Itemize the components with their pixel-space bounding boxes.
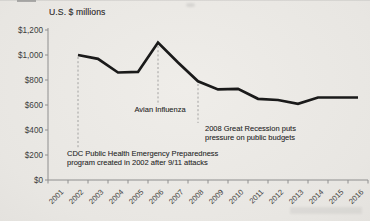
x-tick-label: 2004: [107, 188, 125, 206]
annotation-cdc-phep: CDC Public Health Emergency Preparedness…: [67, 150, 249, 168]
x-tick-label: 2007: [167, 188, 185, 206]
x-tick-label: 2001: [47, 188, 65, 206]
x-tick-label: 2006: [147, 188, 165, 206]
x-tick-label: 2013: [287, 188, 305, 206]
scanned-chart-page: U.S. $ millions $1,200$1,000$800$600$400…: [0, 0, 370, 221]
x-tick-label: 2008: [187, 188, 205, 206]
x-tick-label: 2009: [207, 188, 225, 206]
y-tick-label: $200: [25, 151, 44, 160]
annotation-avian-influenza: Avian Influenza: [124, 106, 196, 115]
annotation-text: Avian Influenza: [134, 105, 185, 114]
x-tick-label: 2015: [327, 188, 345, 206]
x-tick-label: 2016: [347, 188, 365, 206]
y-tick-label: $0: [34, 176, 44, 185]
y-tick-label: $1,200: [18, 26, 43, 35]
y-tick-label: $600: [25, 101, 44, 110]
annotation-text: CDC Public Health Emergency Preparedness: [67, 149, 218, 158]
x-tick-label: 2012: [267, 188, 285, 206]
y-tick-label: $800: [25, 76, 44, 85]
funding-line-series: [78, 43, 358, 104]
y-tick-label: $400: [25, 126, 44, 135]
x-tick-label: 2014: [307, 188, 325, 206]
x-tick-label: 2010: [227, 188, 245, 206]
y-tick-label: $1,000: [18, 51, 43, 60]
x-tick-label: 2003: [87, 188, 105, 206]
annotation-text: pressure on public budgets: [205, 133, 295, 142]
x-tick-label: 2011: [247, 188, 265, 206]
annotation-2008-recession: 2008 Great Recession puts pressure on pu…: [205, 125, 317, 143]
annotation-text: program created in 2002 after 9/11 attac…: [67, 158, 208, 167]
annotation-text: 2008 Great Recession puts: [205, 124, 296, 133]
x-tick-label: 2005: [127, 188, 145, 206]
x-tick-label: 2002: [67, 188, 85, 206]
